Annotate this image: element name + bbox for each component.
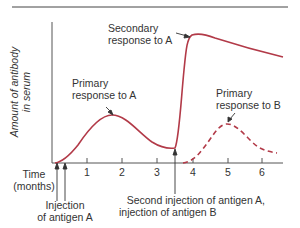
secondary-response-a-label: Secondary response to A (108, 22, 172, 46)
secondary-a-line2: response to A (108, 34, 172, 46)
primary-b-line1: Primary (216, 87, 281, 99)
x-axis-label-line1: Time (12, 168, 56, 180)
injection-a-label: Injection of antigen A (30, 199, 100, 223)
secondary-a-line1: Secondary (108, 22, 172, 34)
tick-label-1: 1 (81, 166, 93, 178)
x-axis-label: Time (months) (12, 168, 56, 192)
tick-label-3: 3 (151, 166, 163, 178)
injection-a-line2: of antigen A (30, 211, 100, 223)
primary-b-line2: response to B (216, 99, 281, 111)
x-ticks (87, 158, 262, 163)
second-injection-label: Second injection of antigen A, injection… (105, 194, 265, 218)
y-axis-label-line2: in serum (20, 42, 32, 142)
primary-a-line1: Primary (72, 77, 136, 89)
injection-a-line1: Injection (30, 199, 100, 211)
tick-label-6: 6 (256, 166, 268, 178)
y-axis-label-line1: Amount of antibody (8, 42, 20, 142)
second-injection-line1: Second injection of antigen A, (105, 194, 265, 206)
tick-label-4: 4 (187, 166, 199, 178)
second-injection-line2: injection of antigen B (105, 206, 265, 218)
tick-label-2: 2 (116, 166, 128, 178)
response-b-curve (183, 124, 277, 163)
tick-label-5: 5 (222, 166, 234, 178)
primary-response-a-label: Primary response to A (72, 77, 136, 101)
primary-response-b-label: Primary response to B (216, 87, 281, 111)
x-axis-label-line2: (months) (12, 180, 56, 192)
primary-a-line2: response to A (72, 89, 136, 101)
y-axis-label: Amount of antibody in serum (8, 42, 34, 142)
